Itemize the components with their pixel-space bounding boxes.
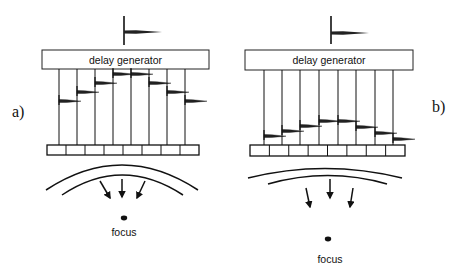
delay-generator-label: delay generator — [293, 54, 366, 66]
panel-label: a) — [12, 103, 24, 121]
wavefront-inner — [268, 176, 387, 185]
delayed-pulse — [95, 81, 117, 84]
delayed-pulse — [185, 99, 207, 102]
propagation-arrow-icon — [100, 181, 110, 198]
wavefront-outer — [248, 169, 402, 179]
focus-label: focus — [111, 226, 136, 238]
delayed-pulse — [59, 99, 81, 102]
propagation-arrow-icon — [306, 188, 310, 207]
focus-label: focus — [317, 253, 342, 265]
phased-array-focusing-diagram: delay generatorfocusa) delay generatorfo… — [0, 0, 460, 277]
delayed-pulse — [149, 81, 171, 84]
propagation-arrow-icon — [350, 188, 353, 207]
propagation-arrow-icon — [137, 181, 145, 198]
delayed-pulse — [338, 119, 360, 122]
delayed-pulse — [393, 137, 415, 140]
delayed-pulse — [282, 129, 304, 132]
input-pulse — [124, 30, 162, 34]
delayed-pulse — [131, 72, 153, 75]
delayed-pulse — [375, 131, 397, 134]
input-pulse — [331, 31, 369, 35]
delay-generator-label: delay generator — [89, 54, 162, 66]
focus-point — [325, 237, 331, 242]
panel-a: delay generatorfocusa) — [12, 16, 209, 238]
delayed-pulse — [77, 90, 99, 93]
focus-point — [121, 216, 127, 221]
panel-label: b) — [432, 98, 445, 116]
panel-b: delay generatorfocusb) — [245, 16, 445, 265]
delayed-pulse — [264, 134, 286, 137]
delayed-pulse — [167, 90, 189, 93]
